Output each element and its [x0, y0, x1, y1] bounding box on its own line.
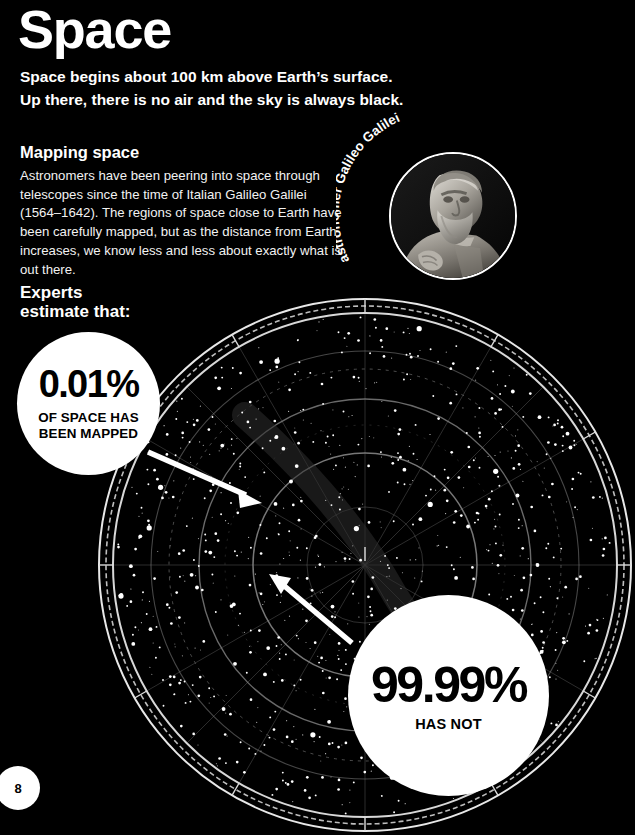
- experts-lead-in: Experts estimate that:: [20, 283, 131, 322]
- page-title: Space: [18, 2, 171, 56]
- section-body: Astronomers have been peering into space…: [20, 167, 342, 279]
- stat-value-mapped: 0.01%: [39, 365, 139, 403]
- galileo-portrait: astronomer Galileo Galilei: [389, 152, 517, 280]
- portrait-frame: [389, 152, 517, 280]
- section-heading: Mapping space: [20, 143, 139, 162]
- page-number-badge: 8: [0, 766, 40, 810]
- stat-label-not-mapped: HAS NOT: [415, 716, 482, 732]
- portrait-caption-text: astronomer Galileo Galilei: [336, 110, 402, 265]
- stat-value-not-mapped: 99.99%: [371, 660, 526, 710]
- stat-bubble-not-mapped: 99.99% HAS NOT: [348, 595, 549, 796]
- arrow-not-mapped-icon: [269, 574, 352, 643]
- star-chart: [95, 295, 635, 835]
- page-number-text: 8: [14, 781, 21, 796]
- stat-bubble-mapped: 0.01% OF SPACE HAS BEEN MAPPED: [17, 332, 160, 475]
- stat-label-mapped: OF SPACE HAS BEEN MAPPED: [38, 410, 139, 442]
- page-subtitle: Space begins about 100 km above Earth’s …: [20, 66, 450, 112]
- arrow-mapped-icon: [148, 452, 262, 508]
